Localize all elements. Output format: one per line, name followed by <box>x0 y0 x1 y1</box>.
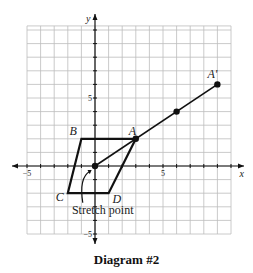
x-axis-label: x <box>239 168 245 179</box>
y-axis-arrow-down <box>93 238 98 244</box>
stretch-point-dot <box>92 163 98 169</box>
ray-point <box>173 108 179 114</box>
vertex-label-B: B <box>69 124 77 138</box>
stretch-point-arrow <box>82 171 90 202</box>
coordinate-diagram: xy−555−5ABCDA'Stretch point <box>0 0 253 273</box>
y-axis-label: y <box>85 13 91 24</box>
ray-point <box>214 81 220 87</box>
vertex-label-A-prime: A' <box>206 67 217 81</box>
y-axis-arrow-up <box>93 14 98 20</box>
diagram-caption: Diagram #2 <box>0 252 253 268</box>
vertex-label-C: C <box>56 190 65 204</box>
x-tick-label: −5 <box>23 169 32 178</box>
stretch-point-label: Stretch point <box>72 203 134 217</box>
y-tick-label: −5 <box>83 230 92 239</box>
x-axis-arrow-left <box>12 164 18 169</box>
labels: xy−555−5ABCDA'Stretch point <box>23 13 245 239</box>
vertex-label-A: A <box>128 124 137 138</box>
x-tick-label: 5 <box>161 169 165 178</box>
y-tick-label: 5 <box>88 94 92 103</box>
